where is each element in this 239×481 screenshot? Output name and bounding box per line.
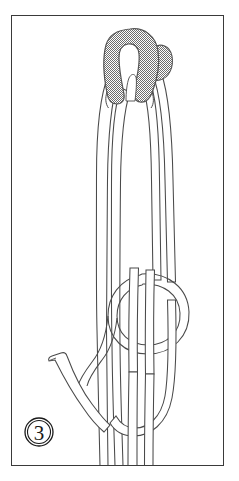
- figure-root: 3: [0, 0, 239, 481]
- step-number-label: 3: [34, 421, 45, 445]
- bight-tip-through-ring: [126, 74, 136, 101]
- standing-part-strand-right: [145, 374, 155, 466]
- rope-artwork: [49, 29, 189, 466]
- knot-diagram: 3: [0, 0, 239, 481]
- inner-bight-left-leg: [111, 88, 130, 466]
- knot-front-strand-b: [145, 270, 154, 374]
- knot-front-strand-a: [129, 268, 139, 372]
- step-badge: 3: [25, 418, 53, 446]
- inner-bight-right-leg: [143, 86, 161, 280]
- standing-part-strands: [128, 372, 138, 466]
